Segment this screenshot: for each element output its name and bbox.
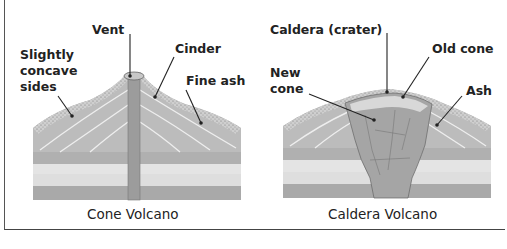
caldera-volcano-drawing xyxy=(283,33,491,198)
label-old-cone: Old cone xyxy=(432,41,494,57)
label-slightly-concave-sides: Slightly concave sides xyxy=(20,47,77,95)
label-new-cone: New cone xyxy=(270,65,303,97)
label-cinder: Cinder xyxy=(175,41,221,57)
caption-cone-volcano: Cone Volcano xyxy=(87,206,179,222)
label-vent: Vent xyxy=(92,22,124,38)
label-caldera-crater: Caldera (crater) xyxy=(270,22,382,38)
caption-caldera-volcano: Caldera Volcano xyxy=(328,206,437,222)
label-fine-ash: Fine ash xyxy=(186,73,245,89)
label-ash: Ash xyxy=(466,83,492,99)
